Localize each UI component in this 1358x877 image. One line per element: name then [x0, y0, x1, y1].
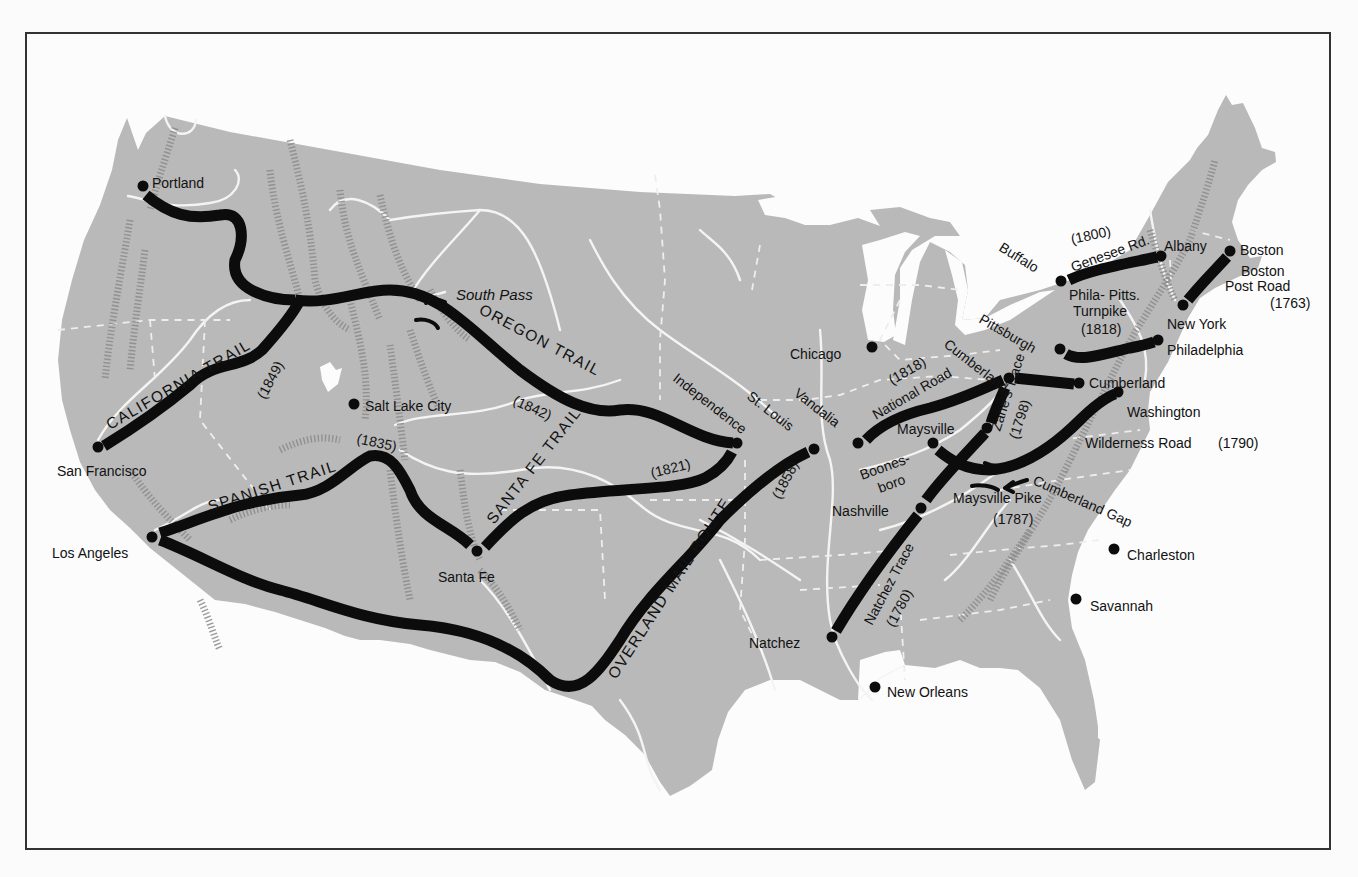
- city-dot-buffalo: [1056, 276, 1067, 287]
- city-label-portland: Portland: [152, 175, 204, 191]
- label-south-pass: South Pass: [456, 286, 533, 303]
- city-label-new-orleans: New Orleans: [887, 684, 968, 700]
- city-dot-los-angeles: [147, 532, 158, 543]
- city-label-maysville: Maysville: [897, 421, 955, 437]
- label-maysville-pike: Maysville Pike: [953, 490, 1042, 506]
- city-label-chicago: Chicago: [790, 346, 842, 362]
- city-dot-new-orleans: [870, 682, 881, 693]
- label-philapitts-2: Turnpike: [1073, 303, 1127, 319]
- city-label-los-angeles: Los Angeles: [52, 545, 128, 561]
- city-label-cumberland: Cumberland: [1089, 375, 1165, 391]
- city-label-santa-fe: Santa Fe: [438, 569, 495, 585]
- city-label-albany: Albany: [1164, 238, 1207, 254]
- trail-national-east: [1015, 378, 1074, 384]
- label-maysville-pike-year: (1787): [993, 511, 1033, 527]
- city-dot-independence: [732, 438, 743, 449]
- label-philapitts-year: (1818): [1081, 321, 1121, 337]
- city-dot-pittsburgh: [1055, 344, 1066, 355]
- city-dot-cumberland: [1074, 378, 1085, 389]
- label-bostonpost-year: (1763): [1270, 295, 1310, 311]
- city-dot-nashville: [916, 503, 927, 514]
- city-label-charleston: Charleston: [1127, 547, 1195, 563]
- label-wilderness-year: (1790): [1218, 435, 1258, 451]
- us-trails-map: PortlandSan FranciscoLos AngelesSalt Lak…: [0, 0, 1358, 877]
- city-dot-boston: [1225, 246, 1236, 257]
- city-dot-philadelphia: [1153, 335, 1164, 346]
- city-dot-salt-lake-city: [349, 399, 360, 410]
- city-dot-boonesboro: [928, 438, 939, 449]
- city-dot-new-york: [1178, 300, 1189, 311]
- city-label-salt-lake-city: Salt Lake City: [365, 398, 451, 414]
- city-dot-charleston: [1109, 544, 1120, 555]
- city-label-natchez: Natchez: [749, 635, 800, 651]
- city-label-washington: Washington: [1127, 404, 1200, 420]
- lake-okeechobee: [1098, 720, 1108, 742]
- city-dot-natchez: [827, 632, 838, 643]
- label-genesee-year: (1800): [1069, 223, 1112, 247]
- label-bostonpost-2: Post Road: [1225, 278, 1290, 294]
- city-label-philadelphia: Philadelphia: [1167, 342, 1243, 358]
- city-label-boston: Boston: [1240, 242, 1284, 258]
- city-label-savannah: Savannah: [1090, 598, 1153, 614]
- city-dot-chicago: [867, 342, 878, 353]
- city-dot-santa-fe: [472, 546, 483, 557]
- label-philapitts-1: Phila- Pitts.: [1069, 287, 1140, 303]
- city-dot-savannah: [1071, 594, 1082, 605]
- city-label-san-francisco: San Francisco: [57, 463, 147, 479]
- label-bostonpost-1: Boston: [1241, 263, 1285, 279]
- city-dot-st-louis: [809, 444, 820, 455]
- city-label-nashville: Nashville: [832, 503, 889, 519]
- city-dot-portland: [138, 181, 149, 192]
- label-wilderness-road: Wilderness Road: [1085, 435, 1192, 451]
- label-buffalo: Buffalo: [996, 239, 1041, 276]
- city-dot-san-francisco: [93, 442, 104, 453]
- city-dot-vandalia: [853, 438, 864, 449]
- city-label-new-york: New York: [1167, 316, 1227, 332]
